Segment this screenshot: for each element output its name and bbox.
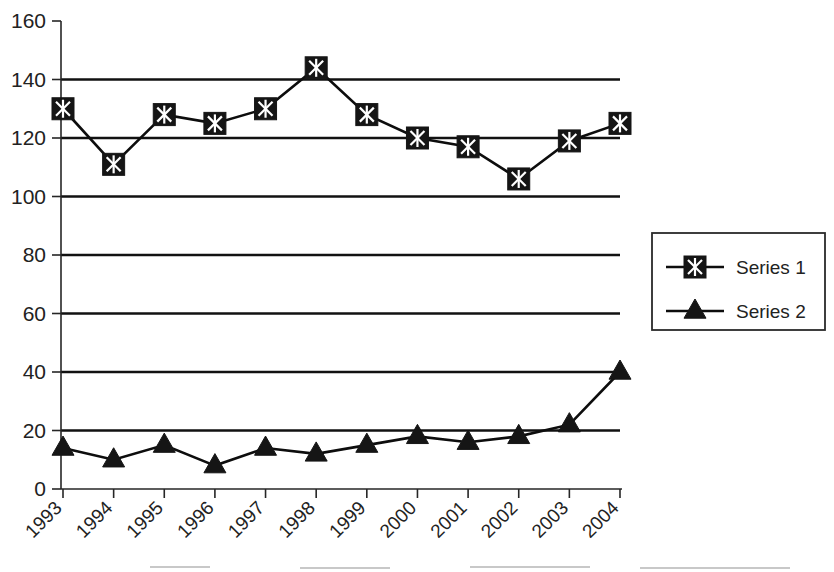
data-point-s1-2001 bbox=[457, 136, 479, 158]
y-tick-label-60: 60 bbox=[23, 302, 46, 325]
data-point-s1-1999 bbox=[356, 104, 378, 126]
y-tick-label-140: 140 bbox=[11, 68, 46, 91]
data-point-s1-1993 bbox=[52, 98, 74, 120]
y-tick-label-120: 120 bbox=[11, 126, 46, 149]
y-tick-label-20: 20 bbox=[23, 419, 46, 442]
y-tick-label-40: 40 bbox=[23, 360, 46, 383]
legend-item-1[interactable]: Series 1 bbox=[666, 256, 806, 278]
line-chart: 020406080100120140160 199319941995199619… bbox=[0, 0, 834, 572]
legend-label-1: Series 1 bbox=[736, 257, 806, 278]
y-tick-label-0: 0 bbox=[34, 477, 46, 500]
data-point-s1-1998 bbox=[305, 57, 327, 79]
legend-label-2: Series 2 bbox=[736, 301, 806, 322]
data-point-s1-2000 bbox=[406, 127, 428, 149]
y-tick-label-80: 80 bbox=[23, 243, 46, 266]
data-point-s1-1994 bbox=[103, 153, 125, 175]
data-point-s1-2003 bbox=[558, 130, 580, 152]
y-tick-label-100: 100 bbox=[11, 185, 46, 208]
y-tick-label-160: 160 bbox=[11, 9, 46, 32]
data-point-s1-1995 bbox=[153, 104, 175, 126]
data-point-s1-2002 bbox=[508, 168, 530, 190]
chart-container: 020406080100120140160 199319941995199619… bbox=[0, 0, 834, 572]
chart-legend: Series 1Series 2 bbox=[652, 233, 825, 330]
data-point-s1-1996 bbox=[204, 112, 226, 134]
data-point-s1-2004 bbox=[609, 112, 631, 134]
data-point-s1-1997 bbox=[255, 98, 277, 120]
